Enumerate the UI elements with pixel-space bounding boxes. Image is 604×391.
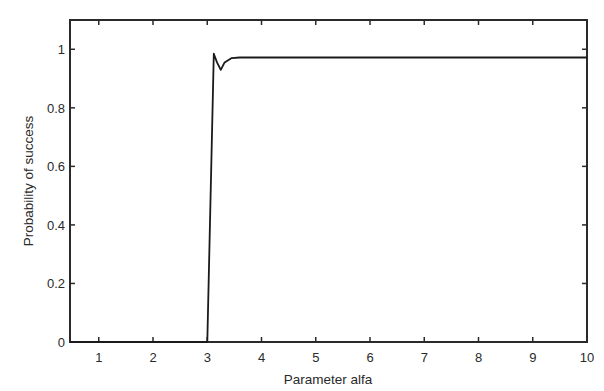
x-axis-label: Parameter alfa [284, 372, 373, 387]
y-axis-label: Probability of success [21, 115, 36, 246]
x-tick-label: 2 [149, 350, 156, 365]
x-tick-label: 4 [258, 350, 265, 365]
y-tick-label: 1 [58, 42, 65, 57]
x-tick-label: 6 [366, 350, 373, 365]
x-tick-label: 8 [475, 350, 482, 365]
x-tick-label: 3 [204, 350, 211, 365]
y-tick-label: 0 [58, 335, 65, 350]
plot-area: 12345678910 00.20.40.60.81 [47, 20, 594, 365]
x-tick-label: 5 [312, 350, 319, 365]
x-tick-label: 7 [421, 350, 428, 365]
x-tick-label: 1 [95, 350, 102, 365]
y-tick-label: 0.6 [47, 159, 65, 174]
x-tick-label: 9 [529, 350, 536, 365]
chart: 12345678910 00.20.40.60.81 Parameter alf… [0, 0, 604, 391]
y-tick-label: 0.8 [47, 101, 65, 116]
x-tick-label: 10 [580, 350, 594, 365]
axes-box [70, 20, 587, 342]
y-tick-label: 0.4 [47, 218, 65, 233]
y-tick-label: 0.2 [47, 276, 65, 291]
